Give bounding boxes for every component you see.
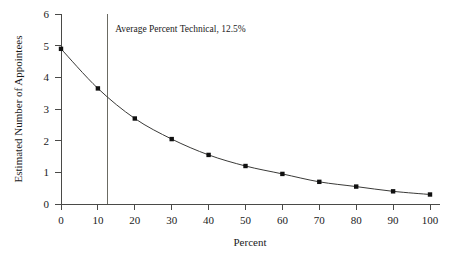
average-percent-label: Average Percent Technical, 12.5% bbox=[115, 24, 246, 34]
y-tick-label: 2 bbox=[44, 135, 50, 147]
data-point-group bbox=[59, 47, 432, 197]
data-point bbox=[96, 86, 100, 90]
data-point bbox=[428, 192, 432, 196]
y-tick-group bbox=[55, 14, 61, 204]
x-tick-label: 20 bbox=[129, 214, 141, 226]
data-series bbox=[59, 47, 432, 197]
x-tick-label-group: 0102030405060708090100 bbox=[58, 214, 439, 226]
y-tick-label: 6 bbox=[44, 8, 50, 20]
x-tick-label: 60 bbox=[277, 214, 289, 226]
chart-canvas: 0123456 0102030405060708090100 Average P… bbox=[0, 0, 462, 261]
x-tick-label: 90 bbox=[388, 214, 400, 226]
y-axis: 0123456 bbox=[44, 8, 62, 210]
x-tick-label: 70 bbox=[314, 214, 326, 226]
data-point bbox=[243, 164, 247, 168]
data-point bbox=[133, 116, 137, 120]
y-tick-label: 0 bbox=[44, 198, 50, 210]
x-tick-label: 50 bbox=[240, 214, 252, 226]
data-point bbox=[354, 184, 358, 188]
trend-curve bbox=[61, 49, 430, 195]
y-tick-label: 3 bbox=[44, 103, 50, 115]
x-tick-label: 30 bbox=[166, 214, 178, 226]
x-tick-label: 100 bbox=[422, 214, 439, 226]
chart-figure: 0123456 0102030405060708090100 Average P… bbox=[0, 0, 462, 261]
x-tick-group bbox=[61, 204, 430, 210]
data-point bbox=[170, 137, 174, 141]
data-point bbox=[206, 153, 210, 157]
data-point bbox=[280, 172, 284, 176]
data-point bbox=[317, 180, 321, 184]
x-tick-label: 40 bbox=[203, 214, 215, 226]
data-point bbox=[59, 47, 63, 51]
annotation-group: Average Percent Technical, 12.5% bbox=[107, 14, 246, 204]
x-tick-label: 80 bbox=[351, 214, 363, 226]
x-axis-title: Percent bbox=[234, 236, 267, 248]
data-point bbox=[391, 189, 395, 193]
y-tick-label: 4 bbox=[44, 71, 50, 83]
x-tick-label: 0 bbox=[58, 214, 64, 226]
y-tick-label-group: 0123456 bbox=[44, 8, 50, 210]
x-axis: 0102030405060708090100 bbox=[58, 204, 440, 226]
y-tick-label: 1 bbox=[44, 166, 50, 178]
x-tick-label: 10 bbox=[92, 214, 104, 226]
y-axis-title: Estimated Number of Appointees bbox=[12, 36, 24, 183]
y-tick-label: 5 bbox=[44, 40, 50, 52]
